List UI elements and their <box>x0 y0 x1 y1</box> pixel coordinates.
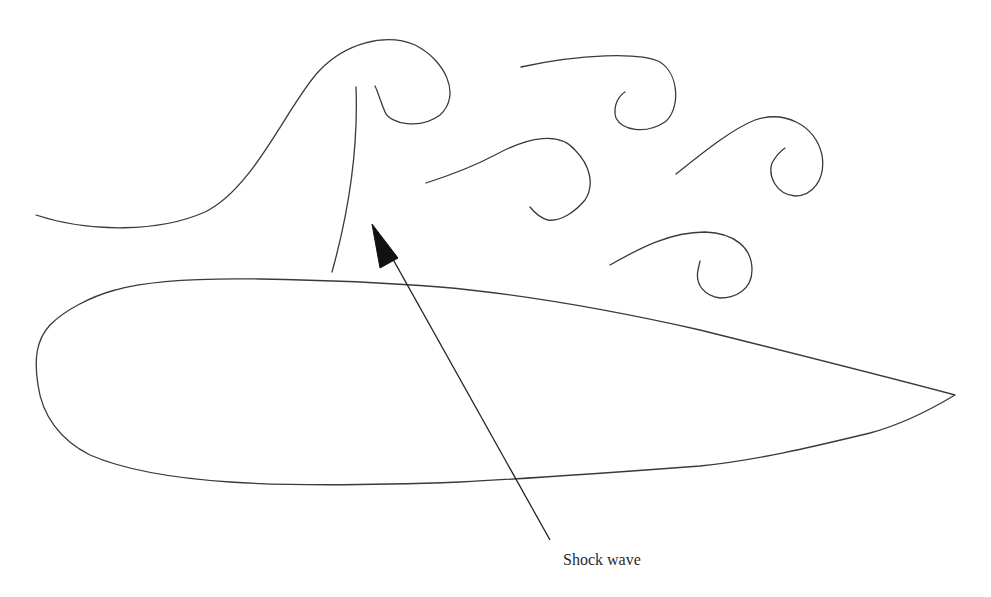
eddy-1 <box>521 56 676 130</box>
diagram-canvas <box>0 0 991 597</box>
eddy-3 <box>676 117 823 196</box>
shock-wave-label: Shock wave <box>563 551 641 569</box>
eddy-2 <box>426 138 590 220</box>
flow-curl-large <box>36 40 450 228</box>
airfoil-outline <box>36 279 955 485</box>
shock-wave-curve <box>332 87 356 272</box>
eddy-4 <box>610 232 752 298</box>
